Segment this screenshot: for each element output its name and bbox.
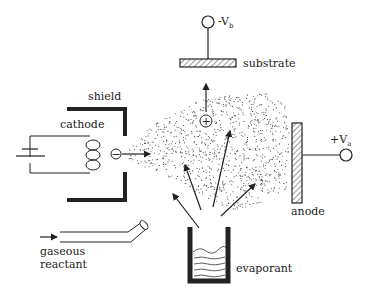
va-terminal-icon <box>340 149 352 161</box>
crucible: evaporant <box>190 227 293 281</box>
gaseous-label: gaseous <box>40 245 85 258</box>
substrate-label: substrate <box>243 57 296 70</box>
anode-label: anode <box>291 205 325 218</box>
anode: +Va anode <box>291 123 352 218</box>
va-label: +Va <box>330 133 351 148</box>
filament-coil-icon <box>86 140 100 170</box>
evaporant-label: evaporant <box>236 262 293 275</box>
nozzle-icon <box>138 219 149 231</box>
substrate-plate <box>180 59 236 67</box>
cathode: cathode − <box>16 118 150 173</box>
shield: shield <box>67 90 125 200</box>
diagram-canvas: -Vb substrate shield cathode − + <box>0 0 367 295</box>
cathode-label: cathode <box>60 118 104 131</box>
vapor-arrows <box>173 131 255 228</box>
substrate: -Vb substrate <box>180 15 296 112</box>
vb-terminal-icon <box>202 16 214 28</box>
ion: + <box>200 115 212 128</box>
shield-label: shield <box>88 90 121 103</box>
svg-text:−: − <box>111 148 120 161</box>
vb-label: -Vb <box>218 15 234 30</box>
anode-plate <box>292 123 302 203</box>
reactant-label: reactant <box>40 258 88 271</box>
plasma-cloud <box>129 93 290 209</box>
svg-text:+: + <box>201 115 210 128</box>
melt-icon <box>193 246 226 276</box>
gas-inlet: gaseous reactant <box>40 219 150 271</box>
diagram-svg: -Vb substrate shield cathode − + <box>0 0 367 295</box>
